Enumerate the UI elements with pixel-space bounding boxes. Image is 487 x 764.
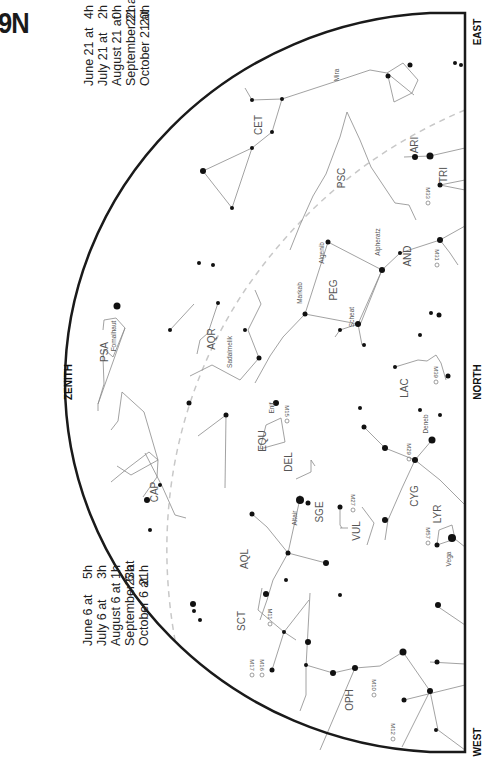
- deep-sky-object-icon: [285, 419, 289, 423]
- deep-sky-label-m33: M33: [425, 187, 431, 199]
- time-hour-times_top-1: 2h: [96, 5, 110, 19]
- time-date-times_top-0: June 21 at: [82, 27, 96, 86]
- direction-north-label: NORTH: [472, 364, 483, 400]
- time-date-times_top-1: July 21 at: [96, 32, 110, 86]
- constellation-label-lyr: LYR: [432, 505, 443, 524]
- constellation-label-equ: EQU: [257, 430, 268, 452]
- constellation-label-cyg: CYG: [409, 485, 420, 507]
- deep-sky-label-m29: M29: [406, 443, 412, 455]
- star-name-vega: Vega: [445, 551, 453, 566]
- time-hour-times_bottom-2: 1h: [109, 565, 123, 579]
- deep-sky-label-m15: M15: [284, 405, 290, 417]
- deep-sky-object-icon: [268, 622, 272, 626]
- constellation-label-lac: LAC: [399, 378, 410, 397]
- time-hour-times_bottom-4: 21h: [137, 565, 151, 586]
- star-name-markab: Markab: [296, 282, 303, 304]
- constellation-label-vul: VUL: [351, 521, 362, 541]
- time-hour-times_top-3: 22h: [124, 5, 138, 26]
- constellation-label-cet: CET: [253, 115, 264, 135]
- constellation-label-peg: PEG: [328, 279, 339, 300]
- star-name-algenib: Algenib: [318, 242, 326, 264]
- deep-sky-object-icon: [372, 693, 376, 697]
- deep-sky-label-m10: M10: [371, 679, 377, 691]
- constellation-label-psa: PSA: [99, 342, 110, 362]
- time-hour-times_bottom-1: 3h: [95, 565, 109, 579]
- constellation-lines: [98, 63, 465, 750]
- deep-sky-object-icon: [250, 673, 254, 677]
- star-name-mira: Mira: [333, 68, 340, 81]
- direction-west-label: WEST: [472, 728, 483, 757]
- constellation-label-oph: OPH: [344, 689, 355, 711]
- deep-sky-object-icon: [426, 201, 430, 205]
- star-name-altair: Altair: [291, 510, 298, 526]
- time-date-times_bottom-0: June 6 at: [81, 594, 95, 646]
- deep-sky-label-m27: M27: [350, 494, 356, 506]
- constellation-label-tri: TRI: [438, 167, 449, 183]
- time-date-times_bottom-1: July 6 at: [95, 599, 109, 646]
- deep-sky-object-icon: [426, 541, 430, 545]
- deep-sky-label-m31: M31: [434, 249, 440, 261]
- direction-east-label: EAST: [472, 19, 483, 46]
- time-date-times_top-2: August 21 at: [110, 15, 124, 86]
- deep-sky-object-icon: [434, 380, 438, 384]
- star-name-fomalhaut: Fomalhaut: [110, 320, 117, 351]
- constellation-label-and: AND: [402, 245, 413, 266]
- constellation-label-sge: SGE: [314, 501, 325, 522]
- deep-sky-object-icon: [260, 673, 264, 677]
- star-chart: EASTNORTHWESTZENITH June 21 at4hJuly 21 …: [0, 0, 487, 764]
- star-name-sadalmelik: Sadalmelik: [226, 335, 233, 368]
- deep-sky-label-m12: M12: [390, 723, 396, 735]
- direction-zenith-label: ZENITH: [63, 364, 74, 400]
- deep-sky-label-m17: M17: [249, 659, 255, 671]
- time-hour-times_top-0: 4h: [82, 5, 96, 19]
- constellation-label-del: DEL: [283, 452, 294, 472]
- constellation-label-aql: AQL: [239, 549, 250, 569]
- deep-sky-label-m16: M16: [259, 659, 265, 671]
- time-date-times_bottom-2: August 6 at: [109, 582, 123, 646]
- deep-sky-object-icon: [351, 508, 355, 512]
- star-name-deneb: Deneb: [422, 414, 429, 434]
- constellation-label-ari: ARI: [409, 137, 420, 154]
- star-name-scheat: Scheat: [348, 307, 355, 327]
- deep-sky-object-icon: [391, 737, 395, 741]
- time-date-times_bottom-4: October 6 at: [137, 577, 151, 646]
- deep-sky-object-icon: [435, 263, 439, 267]
- constellation-label-aqr: AQR: [206, 328, 217, 350]
- star-name-alpheratz: Alpheratz: [374, 228, 382, 255]
- time-hour-times_top-2: 0h: [110, 5, 124, 19]
- constellation-label-psc: PSC: [336, 168, 347, 189]
- star-name-enif: Enif: [268, 402, 275, 413]
- constellation-label-sct: SCT: [236, 611, 247, 631]
- time-hour-times_bottom-3: 23h: [123, 565, 137, 586]
- time-hour-times_bottom-0: 5h: [81, 565, 95, 579]
- deep-sky-label-m39: M39: [433, 366, 439, 378]
- time-hour-times_top-4: 20h: [138, 5, 152, 26]
- deep-sky-label-m57: M57: [425, 527, 431, 539]
- deep-sky-label-m11: M11: [267, 608, 273, 620]
- constellation-label-cap: CAP: [149, 481, 160, 502]
